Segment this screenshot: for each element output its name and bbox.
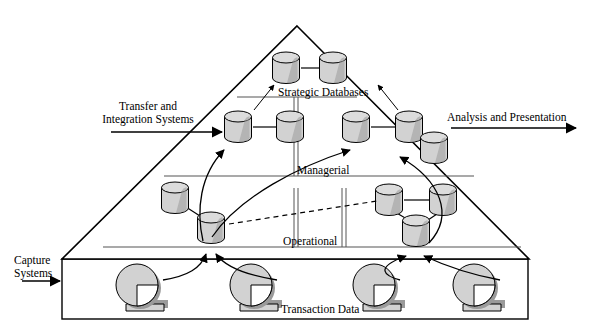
cylinder-operational-2 (198, 212, 225, 244)
label-transfer-integration-systems: Transfer and Integration Systems (98, 100, 198, 126)
diagram-canvas: Capture Systems Transfer and Integration… (0, 0, 594, 334)
cylinder-managerial-4 (396, 111, 423, 143)
cylinder-managerial-2 (277, 111, 304, 143)
cylinder-operational-1 (162, 182, 189, 214)
label-capture-systems-line1: Capture (14, 254, 52, 267)
label-transfer-integration-line2: Integration Systems (98, 113, 198, 126)
cylinder-strategic-1 (273, 52, 300, 84)
label-capture-systems: Capture Systems (14, 254, 52, 280)
label-capture-systems-line2: Systems (14, 267, 52, 280)
cylinder-managerial-3 (343, 111, 370, 143)
label-transfer-integration-line1: Transfer and (98, 100, 198, 113)
cylinder-managerial-1 (225, 111, 252, 143)
cylinder-operational-4 (430, 184, 457, 216)
label-tier-strategic: Strategic Databases (278, 86, 368, 99)
cylinder-managerial-5 (421, 132, 448, 164)
cylinder-strategic-2 (320, 52, 347, 84)
label-tier-managerial: Managerial (297, 164, 349, 177)
cylinder-operational-3 (376, 184, 403, 216)
label-tier-operational: Operational (283, 235, 337, 248)
cylinder-operational-5 (403, 215, 430, 247)
label-analysis-presentation: Analysis and Presentation (447, 111, 566, 124)
label-transaction-data: Transaction Data (281, 303, 359, 316)
